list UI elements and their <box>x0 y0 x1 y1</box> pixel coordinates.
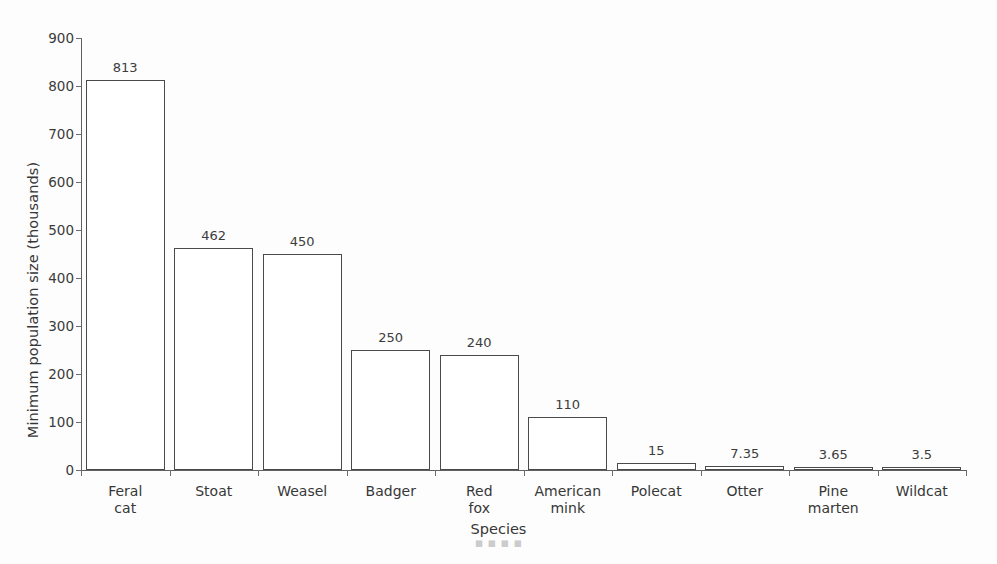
bar <box>86 80 165 470</box>
x-axis-category-label-line: Weasel <box>258 483 347 500</box>
bar <box>705 466 784 470</box>
x-axis-category-label: Americanmink <box>524 483 613 517</box>
x-axis-category-label-line: Otter <box>701 483 790 500</box>
x-axis-category-label: Otter <box>701 483 790 500</box>
bar <box>263 254 342 470</box>
bar-value-label: 7.35 <box>705 446 784 461</box>
x-axis-category-label: Wildcat <box>878 483 967 500</box>
x-axis-category-label: Redfox <box>435 483 524 517</box>
y-axis-tick-mark <box>76 38 82 39</box>
x-axis-tick-mark <box>701 470 702 476</box>
y-axis-tick-label: 700 <box>40 126 74 142</box>
x-axis-category-label-line: Badger <box>347 483 436 500</box>
y-axis-tick-mark <box>76 278 82 279</box>
x-axis-tick-mark <box>347 470 348 476</box>
bar-value-label: 240 <box>440 335 519 350</box>
x-axis-category-label-line: Feral <box>81 483 170 500</box>
x-axis-category-label: Badger <box>347 483 436 500</box>
x-axis-tick-mark <box>966 470 967 476</box>
y-axis-tick-mark <box>76 422 82 423</box>
y-axis-tick-mark <box>76 374 82 375</box>
scan-artifact: ▪ ▪ ▪ ▪ <box>0 538 997 564</box>
x-axis-category-label: Weasel <box>258 483 347 500</box>
x-axis-tick-mark <box>170 470 171 476</box>
y-axis-tick-label: 300 <box>40 318 74 334</box>
bar <box>174 248 253 470</box>
y-axis-tick-labels: 0100200300400500600700800900 <box>40 0 74 564</box>
bar-value-label: 3.5 <box>882 447 961 462</box>
y-axis-tick-label: 100 <box>40 414 74 430</box>
bar <box>528 417 607 470</box>
bar <box>794 467 873 470</box>
y-axis-tick-label: 800 <box>40 78 74 94</box>
bar <box>617 463 696 470</box>
bar <box>351 350 430 470</box>
x-axis-category-label-line: Pine <box>789 483 878 500</box>
y-axis-title: Minimum population size (thousands) <box>25 130 41 470</box>
bar-chart-figure: Minimum population size (thousands) 0100… <box>0 0 997 564</box>
x-axis-tick-mark <box>789 470 790 476</box>
y-axis-tick-mark <box>76 326 82 327</box>
x-axis-tick-mark <box>258 470 259 476</box>
y-axis-tick-mark <box>76 134 82 135</box>
bar-value-label: 813 <box>86 60 165 75</box>
x-axis-category-label-line: mink <box>524 500 613 517</box>
bar-value-label: 250 <box>351 330 430 345</box>
y-axis-tick-label: 0 <box>40 462 74 478</box>
x-axis-category-label-line: fox <box>435 500 524 517</box>
x-axis-tick-mark <box>878 470 879 476</box>
x-axis-category-label-line: Polecat <box>612 483 701 500</box>
plot-area <box>81 38 966 470</box>
x-axis-category-label: Stoat <box>170 483 259 500</box>
x-axis-category-label-line: American <box>524 483 613 500</box>
x-axis-tick-mark <box>524 470 525 476</box>
y-axis-tick-label: 400 <box>40 270 74 286</box>
y-axis-tick-label: 500 <box>40 222 74 238</box>
x-axis-category-label: Feralcat <box>81 483 170 517</box>
x-axis-tick-mark <box>435 470 436 476</box>
bar-value-label: 3.65 <box>794 447 873 462</box>
bar-value-label: 15 <box>617 443 696 458</box>
x-axis-category-label-line: cat <box>81 500 170 517</box>
y-axis-tick-mark <box>76 86 82 87</box>
x-axis-category-label-line: marten <box>789 500 878 517</box>
x-axis-category-label: Pinemarten <box>789 483 878 517</box>
x-axis-category-label-line: Red <box>435 483 524 500</box>
bar-value-label: 450 <box>263 234 342 249</box>
x-axis-category-label: Polecat <box>612 483 701 500</box>
x-axis-tick-mark <box>81 470 82 476</box>
x-axis-category-label-line: Wildcat <box>878 483 967 500</box>
y-axis-tick-label: 200 <box>40 366 74 382</box>
y-axis-tick-mark <box>76 182 82 183</box>
bar-value-label: 462 <box>174 228 253 243</box>
y-axis-tick-label: 600 <box>40 174 74 190</box>
y-axis-tick-label: 900 <box>40 30 74 46</box>
y-axis-tick-mark <box>76 230 82 231</box>
x-axis-category-label-line: Stoat <box>170 483 259 500</box>
bar <box>882 467 961 470</box>
x-axis-title: Species <box>0 521 997 537</box>
bar-value-label: 110 <box>528 397 607 412</box>
x-axis-tick-mark <box>612 470 613 476</box>
bar <box>440 355 519 470</box>
